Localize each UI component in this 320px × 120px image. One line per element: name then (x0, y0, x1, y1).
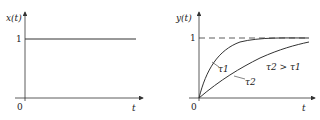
left-origin-label: 0 (17, 102, 23, 112)
tau2-label: τ2 (245, 77, 256, 87)
right-y-label: y(t) (175, 13, 192, 23)
left-y-label: x(t) (6, 13, 22, 23)
right-x-label: t (302, 103, 306, 113)
right-plot: y(t) 1 0 t τ1 τ2 τ2 > τ1 (175, 12, 315, 113)
left-level-label: 1 (16, 34, 22, 44)
tau1-label: τ1 (218, 64, 229, 74)
step-response-diagram: x(t) 1 0 t y(t) 1 0 t τ1 τ2 τ2 > τ1 (0, 0, 320, 120)
tau-relation-label: τ2 > τ1 (266, 62, 301, 72)
right-level-label: 1 (190, 33, 196, 43)
right-origin-label: 0 (191, 102, 197, 112)
tau2-leader (234, 76, 245, 79)
left-plot: x(t) 1 0 t (6, 12, 143, 113)
left-x-label: t (132, 103, 136, 113)
